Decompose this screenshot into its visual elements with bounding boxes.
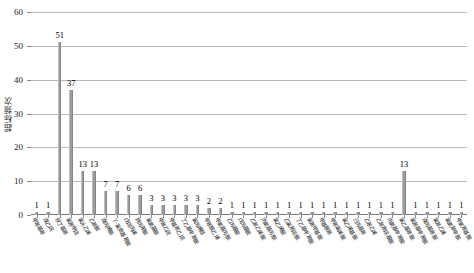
plot-area: 0102030405060 11513713137766333332211111… [31, 12, 467, 215]
bar-value-label: 1 [448, 201, 452, 210]
bar-rect [115, 191, 118, 215]
bar[interactable] [69, 12, 72, 215]
bar[interactable] [391, 12, 394, 215]
bar-value-label: 7 [115, 180, 119, 189]
bar-rect [184, 205, 187, 215]
bar-rect [58, 42, 61, 215]
bar-value-label: 1 [436, 201, 440, 210]
bar[interactable] [310, 12, 313, 215]
bar-value-label: 2 [218, 197, 222, 206]
bar-value-label: 3 [195, 194, 199, 203]
y-tick-label: 60 [14, 7, 23, 17]
bar-value-label: 1 [459, 201, 463, 210]
bar-value-label: 7 [103, 180, 107, 189]
bar-rect [138, 195, 141, 215]
bar-value-label: 1 [310, 201, 314, 210]
bar[interactable] [253, 12, 256, 215]
bar-value-label: 1 [321, 201, 325, 210]
bar[interactable] [173, 12, 176, 215]
bar-value-label: 13 [400, 160, 409, 169]
bar[interactable] [161, 12, 164, 215]
y-tick-label: 0 [19, 210, 24, 220]
bar-rect [69, 90, 72, 215]
bar[interactable] [150, 12, 153, 215]
bar-value-label: 13 [90, 160, 99, 169]
bar[interactable] [437, 12, 440, 215]
bar-value-label: 1 [356, 201, 360, 210]
bar-value-label: 1 [230, 201, 234, 210]
bar[interactable] [425, 12, 428, 215]
bar-rect [104, 191, 107, 215]
bar[interactable] [333, 12, 336, 215]
bar-value-label: 3 [184, 194, 188, 203]
bar-rect [219, 208, 222, 215]
bar[interactable] [460, 12, 463, 215]
bar-value-label: 1 [276, 201, 280, 210]
bar-value-label: 1 [287, 201, 291, 210]
bar-value-label: 1 [413, 201, 417, 210]
y-tick-label: 30 [14, 109, 23, 119]
y-tick-label: 20 [14, 142, 23, 152]
x-axis-labels: 甲苯基苯溴乙烷叔丁基苯氯苯甲烷氯水乙烯乙苯胺溴丙烯胺丫-氯氨基苯胺戊烷丙烯异丙苯… [31, 216, 467, 273]
bar-value-label: 1 [367, 201, 371, 210]
bar-value-label: 1 [264, 201, 268, 210]
bar-value-label: 1 [299, 201, 303, 210]
bar-rect [81, 171, 84, 215]
y-tick-label: 50 [14, 41, 23, 51]
bar-rect [173, 205, 176, 215]
bar[interactable] [379, 12, 382, 215]
bar-value-label: 3 [161, 194, 165, 203]
bar-rect [150, 205, 153, 215]
bar-rect [207, 208, 210, 215]
y-axis-title: 超标频次 [3, 96, 14, 132]
bar[interactable] [414, 12, 417, 215]
bar[interactable] [35, 12, 38, 215]
bar-value-label: 1 [241, 201, 245, 210]
bar-rect [402, 171, 405, 215]
bar-value-label: 3 [149, 194, 153, 203]
bar[interactable] [184, 12, 187, 215]
bar[interactable] [287, 12, 290, 215]
bar-value-label: 51 [55, 31, 64, 40]
bar[interactable] [81, 12, 84, 215]
bar[interactable] [276, 12, 279, 215]
bar[interactable] [230, 12, 233, 215]
bar-value-label: 1 [379, 201, 383, 210]
bar[interactable] [242, 12, 245, 215]
bar-rect [161, 205, 164, 215]
bar[interactable] [207, 12, 210, 215]
bar-value-label: 2 [207, 197, 211, 206]
bar-value-label: 1 [344, 201, 348, 210]
bar[interactable] [196, 12, 199, 215]
bar-value-label: 3 [172, 194, 176, 203]
bar-value-label: 1 [390, 201, 394, 210]
bar[interactable] [322, 12, 325, 215]
bar-rect [196, 205, 199, 215]
bar-value-label: 37 [67, 79, 76, 88]
bar-value-label: 1 [46, 201, 50, 210]
bar-rect [92, 171, 95, 215]
bar-chart: 超标频次 0102030405060 115137131377663333322… [0, 0, 474, 273]
bar-value-label: 6 [126, 184, 130, 193]
bar[interactable] [299, 12, 302, 215]
bar[interactable] [46, 12, 49, 215]
y-tick-label: 10 [14, 176, 23, 186]
bar[interactable] [92, 12, 95, 215]
bar[interactable] [219, 12, 222, 215]
bar[interactable] [345, 12, 348, 215]
bar[interactable] [368, 12, 371, 215]
bar-value-label: 1 [253, 201, 257, 210]
bar[interactable] [58, 12, 61, 215]
bar[interactable] [448, 12, 451, 215]
bar[interactable] [356, 12, 359, 215]
bar-value-label: 1 [333, 201, 337, 210]
bar[interactable] [402, 12, 405, 215]
bar[interactable] [264, 12, 267, 215]
bars-layer: 1151371313776633333221111111111111111311… [31, 12, 467, 215]
bar-value-label: 6 [138, 184, 142, 193]
bar-value-label: 1 [425, 201, 429, 210]
bar-value-label: 13 [78, 160, 87, 169]
y-tick-label: 40 [14, 75, 23, 85]
bar-rect [127, 195, 130, 215]
bar-value-label: 1 [35, 201, 39, 210]
